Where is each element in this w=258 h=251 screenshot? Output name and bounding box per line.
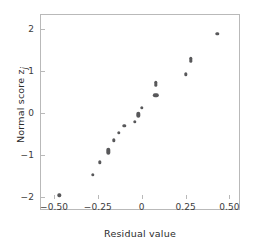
x-tick-label: −0.50 xyxy=(40,202,68,212)
x-axis-title: Residual value xyxy=(40,228,240,239)
y-tick-mark xyxy=(41,113,45,114)
y-tick-label: −1 xyxy=(16,150,34,160)
x-tick-mark xyxy=(98,195,99,199)
y-tick-label: 1 xyxy=(16,66,34,76)
normal-probability-plot: Residual value Normal score zj −0.50−0.2… xyxy=(0,0,258,251)
y-tick-label: −2 xyxy=(16,192,34,202)
x-tick-label: 0.50 xyxy=(219,202,239,212)
plot-area xyxy=(40,14,240,210)
y-tick-mark xyxy=(41,71,45,72)
y-tick-mark xyxy=(41,197,45,198)
x-tick-mark xyxy=(54,195,55,199)
x-tick-mark xyxy=(186,195,187,199)
y-tick-label: 2 xyxy=(16,24,34,34)
x-tick-label: −0.25 xyxy=(84,202,112,212)
y-tick-mark xyxy=(41,29,45,30)
x-tick-label: 0 xyxy=(139,202,145,212)
x-tick-label: 0.25 xyxy=(175,202,195,212)
x-tick-mark xyxy=(229,195,230,199)
y-tick-label: 0 xyxy=(16,108,34,118)
x-tick-mark xyxy=(142,195,143,199)
y-axis-title-text: Normal score z xyxy=(15,69,26,143)
y-tick-mark xyxy=(41,155,45,156)
